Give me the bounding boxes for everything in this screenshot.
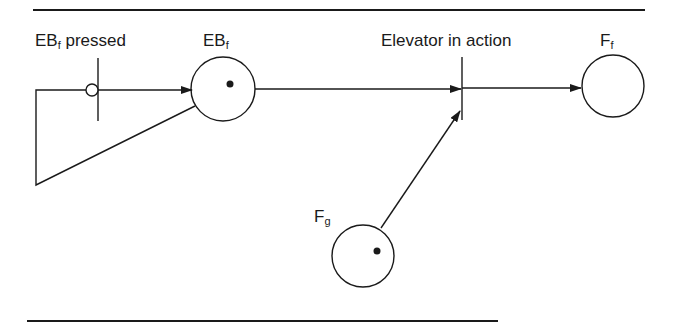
label-text: F [600,31,610,50]
place-ff [582,55,644,117]
arc-fg-to-elevator [381,111,460,228]
label-text: EB [203,31,226,50]
label-elevator-in-action: Elevator in action [381,31,511,51]
place-fg [332,225,394,287]
label-text: EB [35,31,58,50]
inhibitor-arc-head [86,84,98,96]
token-ebf [227,81,234,88]
label-ebf-place: EBf [203,31,229,51]
token-fg [374,248,381,255]
label-subscript: g [324,215,330,227]
label-ff-place: Ff [600,31,613,51]
arc-ebf-to-pressed-inhibitor [36,90,195,185]
label-text: F [314,207,324,226]
place-ebf [191,57,255,121]
label-suffix: pressed [61,31,126,50]
label-fg-place: Fg [314,207,331,227]
label-subscript: f [610,39,613,51]
label-subscript: f [226,39,229,51]
label-ebf-pressed: EBf pressed [35,31,126,51]
